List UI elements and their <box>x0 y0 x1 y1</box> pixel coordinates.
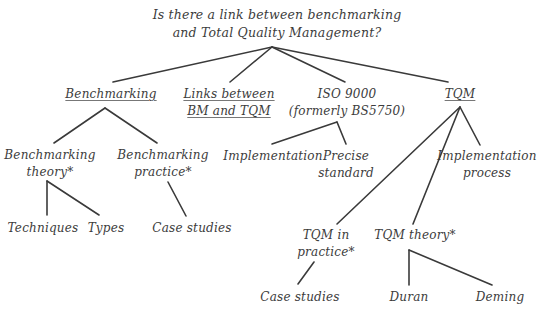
root-question: Is there a link between benchmarking and… <box>153 6 402 42</box>
node-implementation-label: Implementation <box>223 148 322 165</box>
node-benchmarking-theory: Benchmarking theory* <box>4 147 95 181</box>
node-implementation-process-label-1: Implementation <box>437 148 536 165</box>
node-implementation-process: Implementation process <box>437 148 536 182</box>
node-links-label-2: BM and TQM <box>183 103 274 120</box>
node-iso-label-1: ISO 9000 <box>289 86 405 103</box>
node-techniques-label: Techniques <box>8 220 79 237</box>
node-tqm-in-practice: TQM in practice* <box>297 227 355 261</box>
node-tqm: TQM <box>445 86 476 103</box>
node-bm-case-studies-label: Case studies <box>152 220 231 237</box>
node-precise-standard-label-2: standard <box>318 165 374 182</box>
node-benchmarking: Benchmarking <box>65 86 156 103</box>
edge-tqm-implementation-process <box>460 107 480 145</box>
node-tqm-practice-label-1: TQM in <box>297 227 355 244</box>
node-precise-standard-label-1: Precise <box>318 148 374 165</box>
node-implementation-process-label-2: process <box>437 165 536 182</box>
edge-practice-case-studies <box>168 182 186 216</box>
edge-root-benchmarking <box>113 47 272 82</box>
node-links-label-1: Links between <box>183 86 274 103</box>
node-bm-practice-label-2: practice* <box>117 164 208 181</box>
node-links-bm-tqm: Links between BM and TQM <box>183 86 274 120</box>
node-implementation: Implementation <box>223 148 322 165</box>
node-iso-9000: ISO 9000 (formerly BS5750) <box>289 86 405 120</box>
node-deming: Deming <box>476 289 525 306</box>
node-tqm-practice-label-2: practice* <box>297 244 355 261</box>
edge-root-tqm <box>272 47 448 82</box>
edge-iso-precise-standard <box>337 122 346 144</box>
node-tqm-label: TQM <box>445 86 476 103</box>
node-duran-label: Duran <box>390 289 429 306</box>
node-duran: Duran <box>390 289 429 306</box>
edge-root-iso <box>272 47 345 82</box>
node-precise-standard: Precise standard <box>318 148 374 182</box>
node-bm-practice-label-1: Benchmarking <box>117 147 208 164</box>
node-bm-theory-label-1: Benchmarking <box>4 147 95 164</box>
edge-benchmarking-theory <box>54 108 105 143</box>
node-deming-label: Deming <box>476 289 525 306</box>
node-tqm-case-studies: Case studies <box>260 289 339 306</box>
node-iso-label-2: (formerly BS5750) <box>289 103 405 120</box>
node-types: Types <box>88 220 125 237</box>
node-benchmarking-label: Benchmarking <box>65 86 156 103</box>
node-tqm-case-studies-label: Case studies <box>260 289 339 306</box>
node-tqm-theory-label: TQM theory* <box>374 227 456 244</box>
root-line-1: Is there a link between benchmarking <box>153 6 402 24</box>
edge-tqm-theory-deming <box>409 250 492 285</box>
tree-diagram: Is there a link between benchmarking and… <box>0 0 538 313</box>
node-types-label: Types <box>88 220 125 237</box>
node-techniques: Techniques <box>8 220 79 237</box>
edge-iso-implementation <box>272 122 337 144</box>
edge-benchmarking-practice <box>105 108 157 143</box>
node-bm-case-studies: Case studies <box>152 220 231 237</box>
edge-theory-types <box>47 181 99 215</box>
node-benchmarking-practice: Benchmarking practice* <box>117 147 208 181</box>
node-bm-theory-label-2: theory* <box>4 164 95 181</box>
root-line-2: and Total Quality Management? <box>153 24 402 42</box>
edge-tqm-practice-case-studies <box>298 262 314 284</box>
node-tqm-theory: TQM theory* <box>374 227 456 244</box>
